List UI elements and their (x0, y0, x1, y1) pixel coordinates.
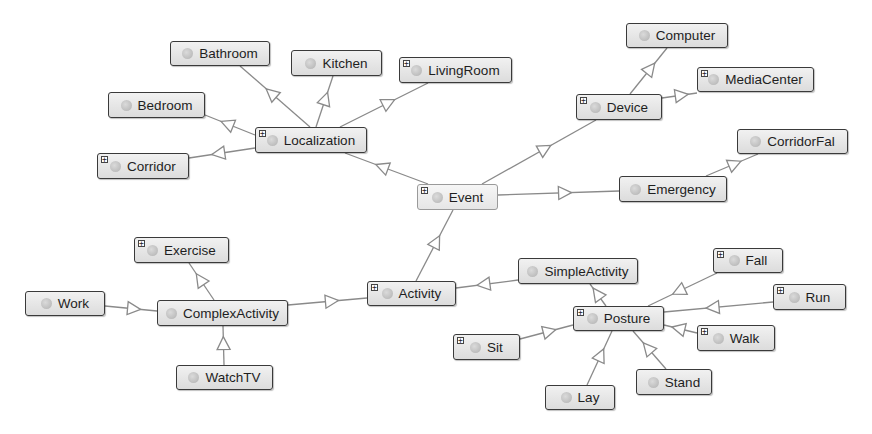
class-circle-icon (41, 298, 52, 309)
class-circle-icon (470, 342, 481, 353)
subclass-edge-localization-to-corridor (189, 146, 255, 159)
class-circle-icon (188, 372, 199, 383)
expand-plus-icon[interactable] (577, 309, 584, 316)
class-node-label: MediaCenter (725, 72, 802, 87)
inheritance-arrow-icon (477, 277, 491, 290)
expand-plus-icon[interactable] (457, 337, 464, 344)
expand-plus-icon[interactable] (371, 284, 378, 291)
subclass-edge-complexactivity-to-activity (288, 295, 367, 308)
inheritance-arrow-icon (221, 120, 236, 132)
ontology-graph-canvas[interactable]: BathroomKitchenLivingRoomBedroomLocaliza… (0, 0, 872, 434)
class-node-complexactivity[interactable]: ComplexActivity (157, 300, 288, 326)
expand-plus-icon[interactable] (259, 130, 266, 137)
inheritance-arrow-icon (643, 343, 656, 357)
class-node-label: Fall (746, 253, 768, 268)
class-node-lay[interactable]: Lay (545, 385, 615, 410)
class-circle-icon (432, 192, 443, 203)
expand-plus-icon[interactable] (138, 240, 145, 247)
expand-plus-icon[interactable] (403, 60, 410, 67)
class-node-corridor[interactable]: Corridor (97, 153, 189, 179)
inheritance-arrow-icon (727, 160, 742, 172)
subclass-edge-event-to-device (482, 120, 596, 184)
class-node-corridorfal[interactable]: CorridorFal (737, 129, 848, 154)
class-node-label: Activity (399, 286, 442, 301)
class-node-bedroom[interactable]: Bedroom (108, 92, 205, 118)
class-node-label: ComplexActivity (183, 306, 279, 321)
class-node-label: Posture (604, 311, 651, 326)
class-circle-icon (182, 48, 193, 59)
class-node-posture[interactable]: Posture (573, 306, 664, 331)
inheritance-arrow-icon (592, 349, 604, 364)
class-node-localization[interactable]: Localization (255, 127, 367, 153)
subclass-edge-sit-to-posture (520, 325, 573, 339)
subclass-edge-device-to-computer (630, 48, 667, 94)
class-node-label: Bathroom (199, 46, 258, 61)
class-node-fall[interactable]: Fall (713, 248, 783, 273)
class-node-label: Sit (487, 340, 503, 355)
class-circle-icon (630, 184, 641, 195)
class-circle-icon (590, 102, 601, 113)
class-node-label: Corridor (127, 159, 176, 174)
class-node-label: Emergency (647, 182, 715, 197)
class-node-livingroom[interactable]: LivingRoom (399, 57, 512, 83)
class-node-emergency[interactable]: Emergency (619, 176, 727, 202)
inheritance-arrow-icon (428, 236, 440, 251)
inheritance-arrow-icon (542, 327, 556, 340)
subclass-edge-exercise-to-complexactivity (189, 263, 214, 300)
subclass-edge-emergency-to-corridorfal (706, 154, 758, 176)
subclass-edge-event-to-localization (345, 153, 428, 184)
class-node-watchtv[interactable]: WatchTV (176, 365, 273, 390)
subclass-edge-posture-to-simpleactivity (590, 284, 606, 306)
expand-plus-icon[interactable] (101, 156, 108, 163)
class-node-device[interactable]: Device (576, 94, 662, 120)
class-circle-icon (411, 65, 422, 76)
class-node-work[interactable]: Work (25, 291, 105, 316)
class-node-exercise[interactable]: Exercise (134, 237, 229, 263)
class-node-mediacenter[interactable]: MediaCenter (697, 67, 814, 92)
subclass-edge-localization-to-bedroom (205, 115, 255, 135)
inheritance-arrow-icon (127, 302, 141, 315)
class-node-label: Computer (656, 28, 715, 43)
class-circle-icon (267, 135, 278, 146)
class-circle-icon (527, 266, 538, 277)
class-node-walk[interactable]: Walk (697, 325, 775, 351)
subclass-edge-simpleactivity-to-activity (456, 277, 518, 290)
expand-plus-icon[interactable] (421, 187, 428, 194)
subclass-edge-watchtv-to-complexactivity (217, 326, 230, 365)
class-node-label: Bedroom (138, 98, 193, 113)
expand-plus-icon[interactable] (717, 251, 724, 258)
inheritance-arrow-icon (672, 324, 686, 337)
inheritance-arrow-icon (593, 288, 606, 302)
subclass-edge-localization-to-livingroom (340, 83, 428, 127)
class-node-label: Walk (730, 331, 760, 346)
class-circle-icon (750, 136, 761, 147)
subclass-edge-fall-to-posture (648, 273, 717, 306)
class-node-stand[interactable]: Stand (636, 369, 712, 395)
class-node-label: Localization (284, 133, 355, 148)
class-node-run[interactable]: Run (773, 284, 846, 310)
inheritance-arrow-icon (212, 146, 226, 159)
class-circle-icon (382, 288, 393, 299)
class-node-activity[interactable]: Activity (367, 281, 456, 306)
expand-plus-icon[interactable] (777, 287, 784, 294)
class-circle-icon (561, 392, 572, 403)
class-circle-icon (639, 30, 650, 41)
expand-plus-icon[interactable] (701, 328, 708, 335)
class-node-kitchen[interactable]: Kitchen (291, 50, 382, 76)
expand-plus-icon[interactable] (580, 97, 587, 104)
subclass-edge-walk-to-posture (664, 324, 697, 337)
class-node-simpleactivity[interactable]: SimpleActivity (518, 258, 638, 284)
inheritance-arrow-icon (558, 187, 571, 200)
inheritance-arrow-icon (317, 92, 329, 106)
class-node-label: Lay (578, 390, 600, 405)
class-circle-icon (648, 377, 659, 388)
class-node-label: Event (449, 190, 484, 205)
class-node-event[interactable]: Event (417, 184, 498, 210)
expand-plus-icon[interactable] (701, 70, 708, 77)
class-circle-icon (729, 255, 740, 266)
class-node-sit[interactable]: Sit (453, 334, 520, 360)
subclass-edge-localization-to-kitchen (316, 76, 333, 127)
subclass-edge-stand-to-posture (633, 331, 666, 369)
class-node-computer[interactable]: Computer (626, 23, 728, 48)
class-node-bathroom[interactable]: Bathroom (170, 41, 270, 66)
